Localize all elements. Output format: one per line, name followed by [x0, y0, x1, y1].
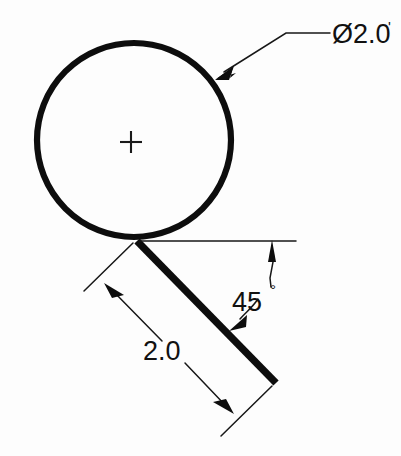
angle-dimension-degree-symbol: ° — [270, 281, 276, 298]
center-mark-plus-icon — [120, 131, 142, 153]
length-extension-line-upper — [84, 243, 133, 291]
angle-upper-arrowhead — [268, 240, 276, 262]
length-extension-line-lower — [221, 386, 272, 436]
length-arrowhead-lower — [213, 399, 234, 414]
length-dimension-segment-upper — [112, 290, 162, 341]
circle-outline — [37, 43, 231, 237]
drawing-svg-root: Ø2.0 ' 45 ° 2.0 — [0, 0, 401, 456]
angle-lower-arrowhead — [229, 315, 247, 331]
length-dimension-text: 2.0 — [143, 336, 181, 366]
angle-dimension-text: 45 — [232, 287, 262, 317]
diameter-leader — [215, 33, 330, 80]
diameter-dimension-suffix: ' — [388, 18, 391, 35]
length-dimension-segment-lower — [185, 363, 226, 406]
diameter-dimension-text-group: Ø2.0 ' — [332, 18, 391, 49]
length-arrowhead-upper — [104, 283, 124, 298]
angle-upper-leader — [268, 240, 276, 287]
engineering-drawing-canvas: Ø2.0 ' 45 ° 2.0 — [0, 0, 401, 456]
angle-dimension-text-group: 45 ° — [232, 281, 276, 317]
diameter-dimension-text: Ø2.0 — [332, 19, 391, 49]
